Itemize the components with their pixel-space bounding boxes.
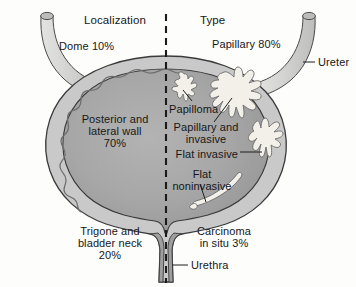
label-papillary: Papillary 80% xyxy=(212,38,281,51)
label-urethra: Urethra xyxy=(191,259,228,272)
label-carcinoma-line2: in situ 3% xyxy=(178,237,270,250)
heading-localization: Localization xyxy=(60,14,170,27)
right-ureter-shape xyxy=(256,12,315,95)
label-dome: Dome 10% xyxy=(59,40,114,53)
heading-type: Type xyxy=(200,14,225,27)
label-carcinoma-line1: Carcinoma xyxy=(178,225,270,238)
label-flat-noninvasive-line1: Flat xyxy=(167,168,237,181)
label-trigone-line1: Trigone and xyxy=(57,225,163,238)
bladder-diagram-figure: Localization Type Dome 10% Papillary 80%… xyxy=(0,0,356,287)
label-flat-noninvasive-line2: noninvasive xyxy=(160,180,244,193)
right-ureter-cut-end xyxy=(303,12,316,19)
label-papilloma: Papilloma xyxy=(169,103,218,116)
label-papillary-invasive-line1: Papillary and xyxy=(166,121,246,134)
label-papillary-invasive-line2: invasive xyxy=(166,133,246,146)
left-ureter-cut-end xyxy=(41,12,54,19)
label-posterior-lateral-line3: 70% xyxy=(60,137,170,150)
label-trigone-line2: bladder neck xyxy=(57,237,163,250)
label-posterior-lateral-line2: lateral wall xyxy=(60,125,170,138)
label-trigone-line3: 20% xyxy=(57,249,163,262)
label-ureter: Ureter xyxy=(318,56,349,69)
label-posterior-lateral-line1: Posterior and xyxy=(60,113,170,126)
label-flat-invasive: Flat invasive xyxy=(160,148,238,161)
